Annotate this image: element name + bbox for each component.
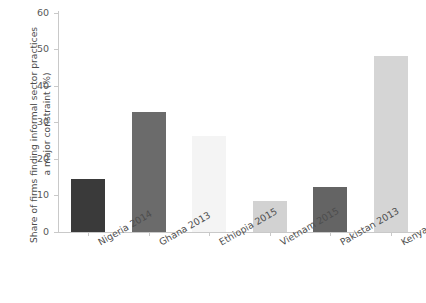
bar-chart: Share of firms finding informal sector p… xyxy=(0,0,426,303)
bar-series xyxy=(58,13,421,232)
x-tick-mark xyxy=(88,232,89,236)
x-tick-mark xyxy=(330,232,331,236)
x-tick-label: Pakistan 2013 xyxy=(338,238,344,248)
x-tick-mark xyxy=(149,232,150,236)
x-axis-labels: Nigeria 2014Ghana 2013Ethiopia 2015Vietn… xyxy=(58,232,421,303)
y-tick-label: 20 xyxy=(0,153,49,164)
y-tick-label: 60 xyxy=(0,7,49,18)
x-tick-mark xyxy=(391,232,392,236)
x-tick-mark xyxy=(209,232,210,236)
x-tick-label: Kenya 2018 xyxy=(399,238,405,248)
x-tick-label: Ethiopia 2015 xyxy=(217,238,223,248)
y-tick-label: 10 xyxy=(0,189,49,200)
bar xyxy=(71,179,105,232)
plot-area xyxy=(58,13,421,232)
y-tick-label: 30 xyxy=(0,116,49,127)
x-tick-mark xyxy=(270,232,271,236)
y-tick-label: 50 xyxy=(0,43,49,54)
y-tick-label: 40 xyxy=(0,80,49,91)
x-tick-label: Vietnam 2015 xyxy=(278,238,284,248)
x-tick-label: Nigeria 2014 xyxy=(96,238,102,248)
bar xyxy=(374,56,408,232)
y-tick-label: 0 xyxy=(0,226,49,237)
x-tick-label: Ghana 2013 xyxy=(157,238,163,248)
